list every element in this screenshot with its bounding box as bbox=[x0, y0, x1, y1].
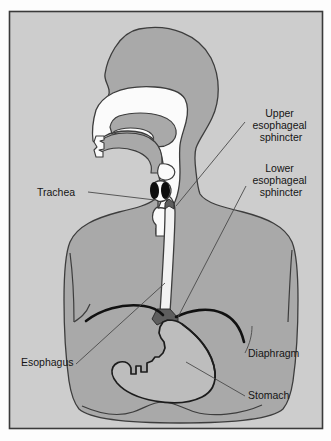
epiglottis bbox=[158, 164, 175, 180]
label-line: Upper bbox=[265, 107, 294, 119]
label-diaphragm: Diaphragm bbox=[248, 347, 300, 359]
label-line: Lower bbox=[265, 162, 294, 174]
anatomical-diagram-figure: Upper esophageal sphincter Lower esophag… bbox=[0, 0, 331, 441]
label-line: sphincter bbox=[260, 186, 303, 198]
label-stomach: Stomach bbox=[248, 389, 290, 401]
label-line: esophageal bbox=[252, 119, 306, 131]
label-esophagus: Esophagus bbox=[21, 356, 74, 368]
label-line: esophageal bbox=[252, 174, 306, 186]
diagram-canvas: Upper esophageal sphincter Lower esophag… bbox=[0, 0, 331, 441]
label-line: sphincter bbox=[260, 131, 303, 143]
label-trachea: Trachea bbox=[37, 186, 75, 198]
